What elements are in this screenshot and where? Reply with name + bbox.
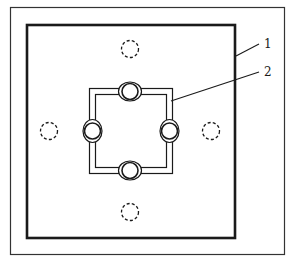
callout-label-1: 1 [264, 37, 272, 51]
leader-line-2 [171, 72, 259, 101]
dashed-hole-left [41, 123, 58, 140]
callouts [171, 44, 259, 101]
connector-bottom [119, 161, 142, 180]
leader-line-1 [236, 44, 259, 56]
diagram-canvas: 1 2 [0, 0, 293, 262]
dashed-hole-top [122, 41, 139, 58]
dashed-hole-bottom [122, 204, 139, 221]
connector-top [119, 82, 142, 101]
outer-frame [11, 8, 285, 255]
frame-inner-line [96, 95, 167, 168]
connector-right [160, 120, 179, 143]
connectors [83, 82, 179, 180]
callout-label-2: 2 [264, 65, 272, 79]
dashed-holes [41, 41, 220, 221]
connector-left [83, 120, 102, 143]
dashed-hole-right [203, 123, 220, 140]
